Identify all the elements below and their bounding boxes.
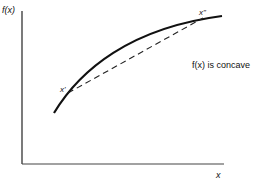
- y-axis-label: f(x): [2, 5, 15, 15]
- chord-dashed-line: [68, 18, 203, 93]
- x-axis-label: x: [215, 170, 221, 180]
- concave-caption: f(x) is concave: [192, 60, 250, 70]
- point-x-prime-label: x': [59, 85, 66, 94]
- point-x-double-prime-label: x": [198, 8, 207, 17]
- concave-function-diagram: f(x) x x' x" f(x) is concave: [0, 0, 260, 183]
